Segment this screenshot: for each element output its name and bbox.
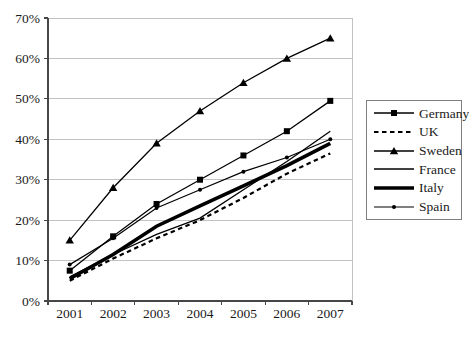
y-tick-label: 20% [15, 213, 40, 228]
series-spain-marker-dot [155, 206, 159, 210]
legend-swatch-france [374, 163, 414, 175]
series-sweden-marker-triangle [196, 107, 204, 114]
x-tick-label: 2005 [230, 306, 257, 321]
legend-label-germany: Germany [419, 107, 469, 121]
series-spain-marker-dot [111, 236, 115, 240]
x-tick-label: 2003 [143, 306, 170, 321]
y-tick-label: 40% [15, 132, 40, 147]
legend-swatch-germany [374, 107, 414, 119]
legend-item-germany: Germany [374, 104, 457, 123]
series-sweden-marker-triangle [239, 79, 247, 86]
legend-label-france: France [419, 163, 456, 177]
series-line-uk [70, 153, 331, 280]
series-germany-marker-square [197, 177, 203, 183]
legend-swatch-spain [374, 201, 414, 213]
legend-label-sweden: Sweden [419, 144, 462, 158]
legend-item-france: France [374, 160, 457, 179]
series-spain-marker-dot [285, 155, 289, 159]
x-tick-label: 2007 [317, 306, 344, 321]
legend-item-uk: UK [374, 123, 457, 142]
legend-swatch-uk [374, 126, 414, 138]
series-line-italy [70, 143, 331, 278]
series-uk [70, 153, 331, 280]
legend-spain-marker-dot [392, 205, 396, 209]
series-germany-marker-square [327, 98, 333, 104]
legend-swatch-italy [374, 182, 414, 194]
series-germany-marker-square [240, 152, 246, 158]
series-line-germany [70, 101, 331, 271]
y-tick-label: 70% [15, 11, 40, 26]
x-tick-label: 2001 [56, 306, 83, 321]
y-tick-label: 0% [22, 294, 40, 309]
legend-germany-marker-square [391, 110, 397, 116]
legend-swatch-sweden [374, 145, 414, 157]
series-sweden-marker-triangle [326, 34, 334, 41]
series-spain-marker-dot [241, 170, 245, 174]
x-tick-label: 2004 [187, 306, 214, 321]
legend-label-uk: UK [419, 125, 439, 139]
y-tick-label: 10% [15, 253, 40, 268]
series-germany-marker-square [67, 268, 73, 274]
legend-item-sweden: Sweden [374, 141, 457, 160]
series-germany [67, 98, 334, 274]
legend-label-spain: Spain [419, 200, 450, 214]
series-spain-marker-dot [68, 263, 72, 267]
x-tick-label: 2006 [273, 306, 300, 321]
series-germany-marker-square [284, 128, 290, 134]
x-tick-label: 2002 [100, 306, 127, 321]
legend-label-italy: Italy [419, 181, 444, 195]
series-spain [68, 137, 333, 266]
y-tick-label: 50% [15, 91, 40, 106]
legend: GermanyUKSwedenFranceItalySpain [366, 100, 462, 220]
y-tick-label: 30% [15, 172, 40, 187]
series-spain-marker-dot [328, 137, 332, 141]
y-tick-label: 60% [15, 51, 40, 66]
series-italy [70, 143, 331, 278]
legend-item-italy: Italy [374, 179, 457, 198]
legend-item-spain: Spain [374, 197, 457, 216]
series-spain-marker-dot [198, 188, 202, 192]
